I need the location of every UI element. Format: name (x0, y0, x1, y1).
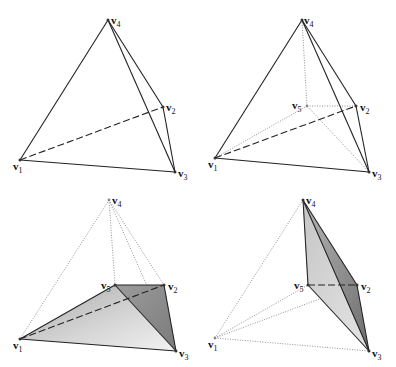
vertex-v5 (114, 284, 117, 287)
panel-bottom-left: v4 v5 v2 v1 v3 (13, 194, 189, 362)
label-v1: v1 (208, 338, 218, 353)
vertex-v3 (174, 171, 177, 174)
label-v2: v2 (166, 101, 176, 116)
edge-v4-v1 (20, 20, 108, 160)
panel-top-right: v4 v5 v2 v1 v3 (208, 14, 382, 182)
edge-v4-v1 (215, 20, 302, 158)
vertex-v1 (19, 159, 22, 162)
edge-v4-v5-dotted (109, 200, 115, 285)
edge-v1-v3 (215, 158, 369, 172)
label-v1: v1 (208, 158, 218, 173)
edge-v4-v2 (302, 20, 356, 106)
vertex-v3 (368, 171, 371, 174)
vertex-v1 (214, 157, 217, 160)
edge-v4-v2-dotted (109, 200, 164, 285)
vertex-v5 (306, 105, 309, 108)
vertex-v5 (307, 284, 310, 287)
edge-v1-v2-hidden (20, 107, 163, 160)
edge-v5-v3-dotted (307, 106, 369, 172)
panel-bottom-right: v4 v5 v2 v1 v3 (208, 194, 382, 362)
label-v3: v3 (179, 347, 189, 362)
tetrahedron-figure: v4 v2 v1 v3 v4 v5 v2 v1 v3 (0, 0, 396, 367)
label-v2: v2 (361, 280, 371, 295)
edge-v4-v3 (302, 20, 369, 172)
edge-v4-v3 (108, 20, 175, 172)
edge-v4-v2 (108, 20, 163, 107)
label-v3: v3 (178, 167, 188, 182)
vertex-v2 (162, 106, 165, 109)
edge-v5-v1-dotted (215, 106, 307, 158)
vertex-v2 (355, 105, 358, 108)
vertex-v4 (302, 199, 305, 202)
label-v2: v2 (360, 101, 370, 116)
vertex-v2 (163, 284, 166, 287)
edge-v2-v3 (163, 107, 175, 172)
edge-v1-v2-hidden (215, 106, 356, 158)
vertex-v1 (214, 337, 217, 340)
vertex-v3 (368, 350, 371, 353)
vertex-v4 (108, 199, 111, 202)
label-v1: v1 (13, 160, 23, 175)
label-v3: v3 (372, 167, 382, 182)
edge-v1-v3-dotted (215, 338, 369, 351)
edge-v4-v5-dotted (302, 20, 307, 106)
edge-v4-v1-dotted (215, 200, 303, 338)
vertex-v4 (107, 19, 110, 22)
edge-v1-v3 (20, 160, 175, 172)
vertex-v2 (356, 284, 359, 287)
label-v5: v5 (292, 99, 302, 114)
vertex-v1 (19, 338, 22, 341)
edge-v1-v5-dotted (215, 285, 308, 338)
vertex-v3 (175, 350, 178, 353)
label-v1: v1 (13, 339, 23, 354)
panel-top-left: v4 v2 v1 v3 (13, 14, 188, 182)
label-v3: v3 (372, 347, 382, 362)
label-v2: v2 (168, 280, 178, 295)
